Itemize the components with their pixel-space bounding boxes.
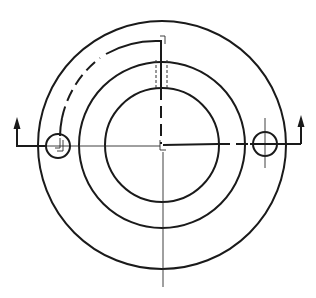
arrow-up-left-icon — [14, 117, 21, 129]
cutting-plane-horizontal-solid — [163, 144, 218, 145]
arrow-up-right-icon — [298, 115, 305, 127]
cutting-plane-arc-solid-top — [106, 41, 157, 54]
cutting-plane-arc-dashed — [62, 58, 100, 118]
cutting-plane-top-corner — [157, 41, 161, 60]
technical-drawing — [0, 0, 316, 298]
cutting-plane-left-leg — [17, 128, 46, 146]
cutting-plane-arc-solid-low — [60, 118, 62, 136]
left-hole-corner-mark — [55, 138, 60, 148]
